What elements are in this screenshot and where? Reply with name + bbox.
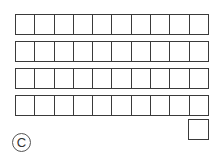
unit-cell xyxy=(74,69,93,88)
ten-rod-1 xyxy=(15,14,209,35)
unit-cell xyxy=(35,42,54,61)
unit-cell xyxy=(74,42,93,61)
unit-cell xyxy=(132,69,151,88)
unit-cell xyxy=(170,69,189,88)
ten-rod-3 xyxy=(15,68,209,89)
unit-cell xyxy=(112,96,131,115)
unit-cell xyxy=(55,96,74,115)
ten-rod-2 xyxy=(15,41,209,62)
unit-cell xyxy=(170,42,189,61)
unit-cell xyxy=(132,96,151,115)
unit-cell xyxy=(112,15,131,34)
unit-cell xyxy=(93,15,112,34)
unit-cell xyxy=(16,69,35,88)
unit-cell xyxy=(93,96,112,115)
unit-cell xyxy=(55,69,74,88)
option-label: C xyxy=(17,135,26,150)
unit-cell xyxy=(16,96,35,115)
unit-cell xyxy=(55,42,74,61)
unit-cell xyxy=(190,69,208,88)
unit-cell xyxy=(93,69,112,88)
unit-block xyxy=(188,119,209,140)
unit-cell xyxy=(16,15,35,34)
unit-cell xyxy=(190,15,208,34)
unit-cell xyxy=(170,96,189,115)
unit-cell xyxy=(132,15,151,34)
unit-cell xyxy=(190,42,208,61)
unit-cell xyxy=(112,42,131,61)
unit-cell xyxy=(132,42,151,61)
unit-cell xyxy=(151,96,170,115)
unit-cell xyxy=(74,15,93,34)
unit-cell xyxy=(35,96,54,115)
unit-cell xyxy=(151,15,170,34)
option-label-circle: C xyxy=(12,133,31,152)
unit-cell xyxy=(112,69,131,88)
unit-cell xyxy=(93,42,112,61)
unit-cell xyxy=(55,15,74,34)
unit-cell xyxy=(151,69,170,88)
unit-cell xyxy=(170,15,189,34)
unit-cell xyxy=(151,42,170,61)
unit-cell xyxy=(35,15,54,34)
unit-cell xyxy=(16,42,35,61)
unit-cell xyxy=(74,96,93,115)
unit-cell xyxy=(35,69,54,88)
ten-rod-4 xyxy=(15,95,209,116)
unit-cell xyxy=(190,96,208,115)
